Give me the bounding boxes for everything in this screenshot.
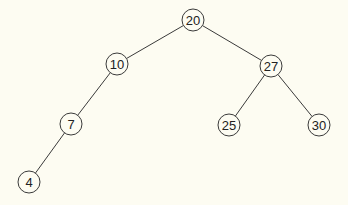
tree-edge-27-25 [235, 75, 264, 116]
node-label: 7 [67, 117, 74, 132]
node-label: 30 [312, 118, 326, 133]
node-label: 10 [110, 57, 124, 72]
node-label: 20 [186, 13, 200, 28]
tree-edges [35, 26, 312, 174]
node-label: 4 [25, 175, 32, 190]
tree-node-27: 27 [260, 55, 282, 77]
node-label: 27 [264, 59, 278, 74]
node-label: 25 [222, 118, 236, 133]
tree-edge-20-10 [127, 26, 184, 59]
tree-node-7: 7 [60, 113, 82, 135]
tree-edge-10-7 [78, 73, 111, 116]
tree-edge-27-30 [278, 75, 312, 117]
tree-nodes: 201027725304 [18, 9, 330, 193]
tree-node-4: 4 [18, 171, 40, 193]
tree-node-30: 30 [308, 114, 330, 136]
tree-node-25: 25 [218, 114, 240, 136]
tree-edge-20-27 [202, 26, 261, 61]
tree-node-10: 10 [106, 53, 128, 75]
tree-edge-7-4 [35, 133, 64, 173]
binary-tree-diagram: 201027725304 [0, 0, 348, 205]
tree-node-20: 20 [182, 9, 204, 31]
